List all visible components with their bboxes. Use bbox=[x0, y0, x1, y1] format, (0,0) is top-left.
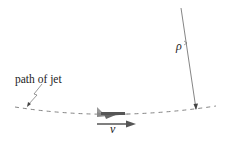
jet-path-diagram: path of jet ρ v bbox=[0, 0, 226, 142]
radius-rho-label: ρ bbox=[176, 39, 182, 54]
path-leader-zigzag bbox=[28, 84, 42, 105]
radius-line bbox=[181, 8, 196, 109]
velocity-label: v bbox=[110, 122, 115, 137]
diagram-graphics bbox=[0, 0, 226, 142]
velocity-arrowhead bbox=[126, 121, 136, 128]
jet-icon bbox=[97, 107, 131, 119]
path-of-jet-label: path of jet bbox=[15, 73, 62, 85]
